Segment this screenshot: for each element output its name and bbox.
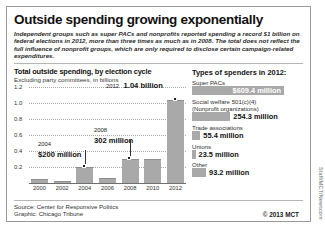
y-axis-tick: 0.2 — [14, 164, 28, 170]
footer-sources: Source: Center for Responsive Politics G… — [14, 203, 118, 218]
annotation-leader-2004 — [85, 150, 86, 164]
x-label-2000: 2000 — [31, 185, 48, 191]
spender-entry: Super PACs$609.4 million — [192, 79, 303, 95]
infographic: Outside spending growing exponentially I… — [0, 0, 325, 226]
annotation-2008: 2008302 million — [94, 123, 133, 144]
spender-label: Other — [192, 161, 303, 168]
annotation-year: 2008 — [94, 127, 107, 133]
chart-column: Total outside spending, by election cycl… — [14, 67, 186, 200]
page-title: Outside spending growing exponentially — [14, 12, 303, 27]
vertical-credit: Staff/MCT/Newscom — [318, 167, 324, 220]
annotation-marker-2008 — [127, 156, 131, 160]
spender-bar — [192, 168, 206, 177]
annotation-2004: 2004$200 million — [38, 137, 81, 158]
annotation-year: 2012 — [106, 83, 119, 89]
graphic-line: Graphic: Chicago Tribune — [14, 210, 118, 218]
spender-bar-row: 55.4 million — [192, 131, 303, 140]
x-label-2004: 2004 — [76, 185, 93, 191]
spender-entry: Unions23.5 million — [192, 143, 303, 159]
spender-value: 23.5 million — [199, 150, 239, 159]
y-axis-tick: 1.2 — [14, 84, 28, 90]
spender-value: 93.2 million — [209, 168, 249, 177]
bar-chart: 0.20.40.60.81.01.2 200020022004200620082… — [14, 85, 186, 197]
source-line: Source: Center for Responsive Politics — [14, 203, 118, 211]
spenders-title: Types of spenders in 2012: — [192, 68, 303, 77]
spender-bar: $609.4 million — [192, 86, 284, 95]
y-axis-tick: 1.0 — [14, 100, 28, 106]
chart-x-axis — [29, 183, 186, 184]
annotation-value: 1.04 billion — [124, 81, 163, 90]
content-body: Total outside spending, by election cycl… — [14, 67, 303, 200]
bar-2012 — [167, 100, 184, 183]
spender-value: $609.4 million — [233, 86, 281, 95]
x-label-2002: 2002 — [54, 185, 71, 191]
spender-sublabel: (Nonprofit organizations) — [192, 105, 303, 112]
spender-label: Unions — [192, 143, 303, 150]
spender-label: Social welfare 501(c)(4) — [192, 98, 303, 105]
spender-label: Trade associations — [192, 124, 303, 131]
annotation-value: $200 million — [38, 150, 81, 159]
spender-bar-row: 93.2 million — [192, 168, 303, 177]
x-label-2010: 2010 — [144, 185, 161, 191]
annotation-value: 302 million — [94, 136, 133, 145]
spender-entry: Social welfare 501(c)(4)(Nonprofit organ… — [192, 98, 303, 121]
y-axis-tick: 0.4 — [14, 148, 28, 154]
annotation-marker-2012 — [173, 97, 177, 101]
spender-value: 55.4 million — [203, 131, 243, 140]
copyright: © 2013 MCT — [263, 211, 303, 218]
spenders-column: Types of spenders in 2012: Super PACs$60… — [192, 67, 303, 200]
spender-value: 254.3 million — [233, 112, 277, 121]
spender-bar — [192, 112, 230, 121]
spenders-list: Super PACs$609.4 millionSocial welfare 5… — [192, 79, 303, 177]
spender-label: Super PACs — [192, 79, 303, 86]
spender-entry: Other93.2 million — [192, 161, 303, 177]
deck-text: Independent groups such as super PACs an… — [14, 30, 303, 59]
x-label-2006: 2006 — [99, 185, 116, 191]
spender-bar — [192, 150, 196, 159]
annotation-marker-2004 — [82, 164, 86, 168]
chart-x-labels: 2000200220042006200820102012 — [29, 185, 186, 191]
spender-entry: Trade associations55.4 million — [192, 124, 303, 140]
infographic-frame: Outside spending growing exponentially I… — [6, 6, 311, 222]
annotation-year: 2004 — [38, 141, 51, 147]
bar-2004 — [76, 167, 93, 183]
footer: Source: Center for Responsive Politics G… — [14, 200, 303, 218]
y-axis-tick: 0.6 — [14, 132, 28, 138]
header-divider — [14, 63, 303, 64]
bar-2010 — [144, 159, 161, 183]
spender-bar-row: 254.3 million — [192, 112, 303, 121]
spender-bar-row: $609.4 million — [192, 86, 303, 95]
y-axis-tick: 0.8 — [14, 116, 28, 122]
spender-bar-row: 23.5 million — [192, 150, 303, 159]
chart-title: Total outside spending, by election cycl… — [14, 67, 186, 76]
spender-bar — [192, 131, 200, 140]
annotation-2012: 2012 1.04 billion — [106, 79, 163, 90]
bar-2008 — [122, 159, 139, 183]
x-label-2008: 2008 — [122, 185, 139, 191]
x-label-2012: 2012 — [167, 185, 184, 191]
